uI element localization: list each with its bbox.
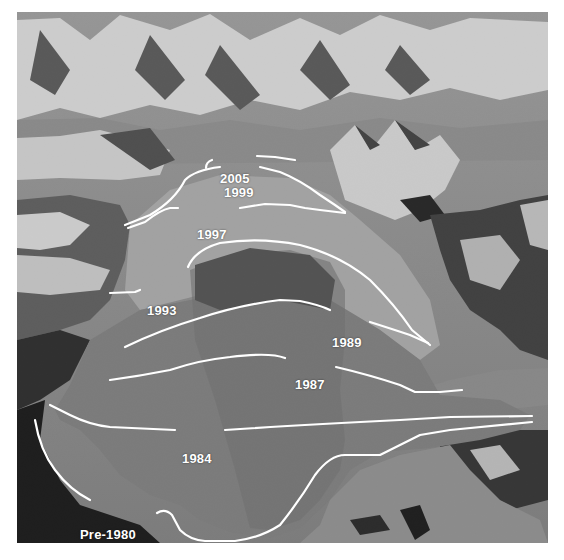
label-2005: 2005 bbox=[220, 172, 250, 185]
label-1997: 1997 bbox=[197, 228, 227, 241]
label-1989: 1989 bbox=[332, 336, 362, 349]
label-pre-1980: Pre-1980 bbox=[80, 528, 136, 541]
label-1984: 1984 bbox=[182, 452, 212, 465]
label-1993: 1993 bbox=[147, 304, 177, 317]
glacier-photo: 2005 1999 1997 1993 1989 1987 1984 Pre-1… bbox=[17, 12, 548, 543]
terrain-image bbox=[17, 12, 548, 543]
label-1999: 1999 bbox=[224, 186, 254, 199]
label-1987: 1987 bbox=[295, 378, 325, 391]
